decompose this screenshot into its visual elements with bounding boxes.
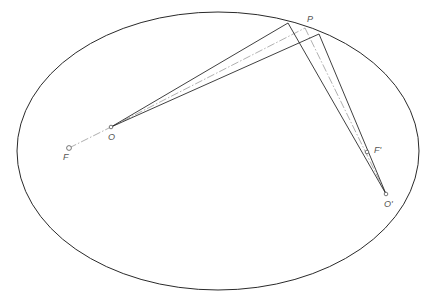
point-marker-icon (109, 125, 113, 129)
center-line (69, 127, 111, 148)
ellipse-boundary (17, 12, 419, 290)
ray-line (111, 34, 319, 127)
ray-line (111, 23, 288, 127)
point-label: O' (384, 199, 393, 209)
point-label: P (307, 14, 313, 24)
diagram-canvas: OFO'F'P (0, 0, 429, 296)
ray-line (319, 34, 386, 194)
point-label: F (63, 152, 69, 162)
center-line (111, 28, 305, 127)
point-labels: OFO'F'P (63, 14, 393, 209)
center-line (305, 28, 386, 194)
point-label: F' (374, 145, 381, 155)
ray-line (288, 23, 386, 194)
point-marker-icon (384, 192, 388, 196)
ray-bundles (111, 23, 386, 194)
point-marker-icon (67, 146, 72, 151)
point-marker-icon (365, 150, 369, 154)
point-label: O (108, 132, 115, 142)
